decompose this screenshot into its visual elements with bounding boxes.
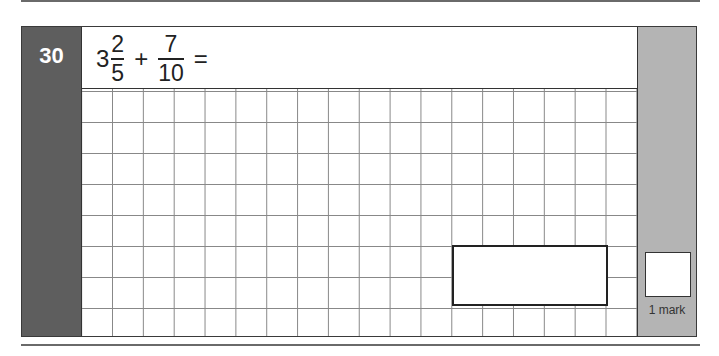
- denominator-2: 10: [158, 62, 184, 85]
- answer-box[interactable]: [452, 245, 608, 306]
- question-frame: 30 3 2 5 + 7 10 = 1 mark: [21, 26, 697, 337]
- plus-operator: +: [134, 45, 148, 73]
- top-rule: [21, 0, 700, 2]
- bottom-rule: [21, 344, 700, 346]
- working-grid[interactable]: [82, 89, 637, 336]
- denominator-1: 5: [111, 62, 124, 85]
- math-expression: 3 2 5 + 7 10 =: [96, 35, 216, 83]
- numerator-1: 2: [111, 33, 124, 56]
- equals-sign: =: [194, 45, 208, 73]
- question-number: 30: [22, 43, 81, 69]
- question-prompt: 3 2 5 + 7 10 =: [82, 27, 637, 89]
- fraction-2: 7 10: [158, 33, 184, 85]
- question-number-panel: 30: [22, 27, 82, 336]
- mark-box[interactable]: [645, 252, 691, 297]
- numerator-2: 7: [165, 33, 178, 56]
- whole-number: 3: [96, 45, 109, 73]
- mark-label: 1 mark: [638, 303, 696, 317]
- fraction-1: 2 5: [111, 33, 124, 85]
- mark-column: 1 mark: [637, 27, 696, 336]
